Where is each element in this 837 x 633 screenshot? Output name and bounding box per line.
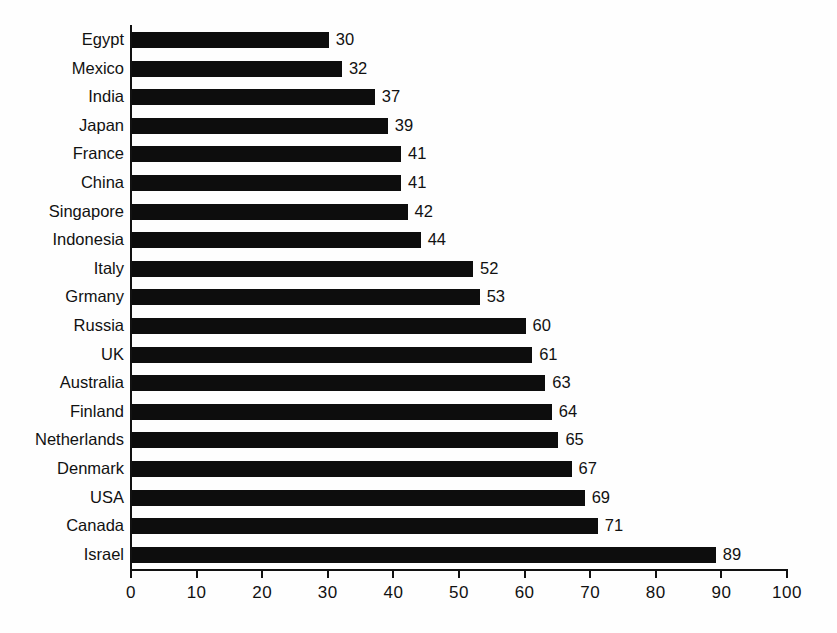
x-axis-tick-label: 100 — [772, 583, 802, 603]
bar — [132, 232, 421, 248]
x-axis-tick-label: 70 — [580, 583, 600, 603]
category-label: Singapore — [49, 203, 124, 220]
bar-row: Japan39 — [0, 113, 837, 141]
bar-row: India37 — [0, 84, 837, 112]
category-label: France — [73, 145, 124, 162]
plot-area: 0102030405060708090100 Egypt30Mexico32In… — [0, 0, 837, 633]
x-axis-tick — [720, 571, 722, 578]
bar-row: France41 — [0, 141, 837, 169]
bar — [132, 518, 598, 534]
category-label: Netherlands — [35, 431, 124, 448]
bar-value-label: 30 — [336, 31, 354, 48]
bar-row: Mexico32 — [0, 56, 837, 84]
bar-value-label: 32 — [349, 60, 367, 77]
x-axis-tick — [524, 571, 526, 578]
bar-value-label: 64 — [559, 403, 577, 420]
x-axis-tick — [458, 571, 460, 578]
category-label: USA — [90, 489, 124, 506]
bar — [132, 404, 552, 420]
x-axis-tick — [130, 571, 132, 578]
category-label: UK — [101, 346, 124, 363]
bar — [132, 461, 572, 477]
bar-value-label: 67 — [579, 460, 597, 477]
bar — [132, 118, 388, 134]
bar-value-label: 53 — [487, 288, 505, 305]
bar-value-label: 42 — [415, 203, 433, 220]
bar — [132, 204, 408, 220]
x-axis-tick-label: 40 — [383, 583, 403, 603]
x-axis-tick — [655, 571, 657, 578]
bar-value-label: 71 — [605, 517, 623, 534]
bar — [132, 146, 401, 162]
category-label: Grmany — [65, 288, 124, 305]
bar — [132, 490, 585, 506]
bar-row: Canada71 — [0, 513, 837, 541]
bar-row: Australia63 — [0, 370, 837, 398]
bar-value-label: 41 — [408, 145, 426, 162]
category-label: Finland — [70, 403, 124, 420]
bar-value-label: 39 — [395, 117, 413, 134]
category-label: Canada — [66, 517, 124, 534]
bar-value-label: 69 — [592, 489, 610, 506]
bar — [132, 89, 375, 105]
bar-value-label: 37 — [382, 88, 400, 105]
bar — [132, 547, 716, 563]
category-label: Israel — [84, 546, 124, 563]
bar-row: Israel89 — [0, 542, 837, 570]
category-label: Japan — [79, 117, 124, 134]
bar — [132, 261, 473, 277]
x-axis-tick-label: 90 — [711, 583, 731, 603]
x-axis-tick-label: 50 — [449, 583, 469, 603]
category-label: Australia — [60, 374, 124, 391]
bar — [132, 432, 558, 448]
category-label: Indonesia — [52, 231, 124, 248]
x-axis-tick-label: 10 — [187, 583, 207, 603]
category-label: China — [81, 174, 124, 191]
x-axis-tick-label: 60 — [515, 583, 535, 603]
category-label: India — [88, 88, 124, 105]
x-axis-tick-label: 0 — [126, 583, 136, 603]
bar-row: Finland64 — [0, 399, 837, 427]
category-label: Egypt — [82, 31, 124, 48]
x-axis-tick — [261, 571, 263, 578]
bar-value-label: 89 — [723, 546, 741, 563]
x-axis-tick-label: 30 — [318, 583, 338, 603]
x-axis-tick — [327, 571, 329, 578]
x-axis-tick — [786, 571, 788, 578]
x-axis-tick — [392, 571, 394, 578]
bar-value-label: 61 — [539, 346, 557, 363]
bar-value-label: 44 — [428, 231, 446, 248]
bar-value-label: 60 — [533, 317, 551, 334]
bar-row: Indonesia44 — [0, 227, 837, 255]
bar-row: Grmany53 — [0, 284, 837, 312]
x-axis-tick — [196, 571, 198, 578]
x-axis-tick-label: 20 — [252, 583, 272, 603]
bar-chart: 0102030405060708090100 Egypt30Mexico32In… — [0, 0, 837, 633]
bar-row: Netherlands65 — [0, 427, 837, 455]
bar-row: Italy52 — [0, 256, 837, 284]
bar — [132, 375, 545, 391]
bar-value-label: 65 — [565, 431, 583, 448]
x-axis-tick — [589, 571, 591, 578]
bar-row: Singapore42 — [0, 199, 837, 227]
bar-value-label: 63 — [552, 374, 570, 391]
category-label: Russia — [74, 317, 124, 334]
x-axis-tick-label: 80 — [646, 583, 666, 603]
category-label: Italy — [94, 260, 124, 277]
bar-row: China41 — [0, 170, 837, 198]
bar-row: Denmark67 — [0, 456, 837, 484]
bar-row: UK61 — [0, 342, 837, 370]
bar-row: USA69 — [0, 485, 837, 513]
bar-value-label: 41 — [408, 174, 426, 191]
bar — [132, 318, 526, 334]
category-label: Mexico — [72, 60, 124, 77]
bar — [132, 347, 532, 363]
bar — [132, 175, 401, 191]
bar-row: Russia60 — [0, 313, 837, 341]
bar-value-label: 52 — [480, 260, 498, 277]
bar — [132, 61, 342, 77]
bar — [132, 32, 329, 48]
bar — [132, 289, 480, 305]
category-label: Denmark — [57, 460, 124, 477]
bar-row: Egypt30 — [0, 27, 837, 55]
